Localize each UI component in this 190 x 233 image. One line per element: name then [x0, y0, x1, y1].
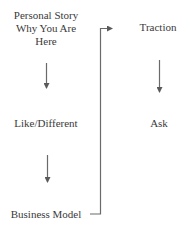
connector-layer — [0, 0, 190, 233]
elbow-connector-arrow-icon — [90, 29, 112, 215]
